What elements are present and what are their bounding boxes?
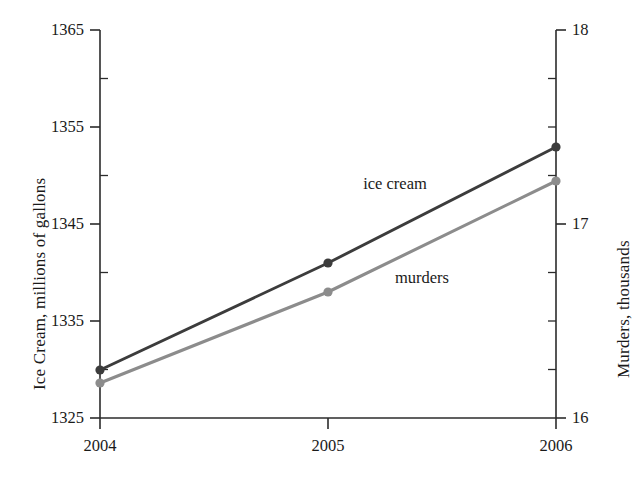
murders-line [100,181,556,383]
murders-point-2004 [95,378,104,387]
left-tick-label-1345: 1345 [51,214,84,234]
right-tick-label-16: 16 [572,408,589,428]
x-tick-label-2006: 2006 [540,436,573,456]
ice-cream-point-2004 [95,365,104,374]
murders-point-2005 [323,287,332,296]
left-tick-label-1335: 1335 [51,311,84,331]
x-axis-ticks [100,418,556,429]
left-axis-title: Ice Cream, millions of gallons [30,178,50,390]
left-axis-minor-ticks [100,79,108,370]
series-ice-cream [95,142,560,374]
x-tick-label-2004: 2004 [84,436,117,456]
murders-point-2006 [551,176,560,185]
axis-lines [100,30,556,418]
ice-cream-point-2005 [323,258,332,267]
right-axis-major-ticks [556,30,566,418]
left-tick-label-1365: 1365 [51,20,84,40]
x-tick-label-2005: 2005 [312,436,345,456]
series-murders [95,176,560,387]
right-tick-label-17: 17 [572,214,589,234]
series-label-murders: murders [395,268,449,288]
right-axis-minor-ticks [548,79,556,370]
right-axis-title: Murders, thousands [614,240,634,378]
ice-cream-point-2006 [551,142,560,151]
left-tick-label-1325: 1325 [51,408,84,428]
left-tick-label-1355: 1355 [51,117,84,137]
right-tick-label-18: 18 [572,20,589,40]
series-label-ice-cream: ice cream [363,174,427,194]
left-axis-major-ticks [90,30,100,418]
